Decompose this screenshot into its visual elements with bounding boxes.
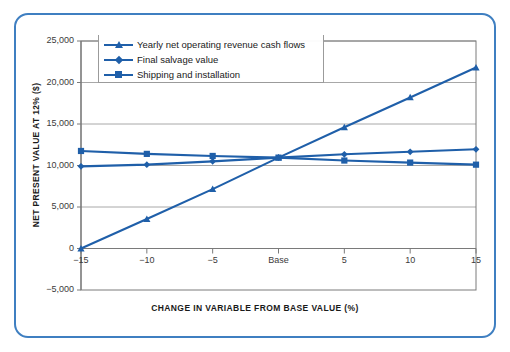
x-tick-label: −10 xyxy=(122,255,172,265)
y-tick-label: 0 xyxy=(20,243,74,253)
legend-label-0: Yearly net operating revenue cash flows xyxy=(137,39,305,50)
x-axis-title: CHANGE IN VARIABLE FROM BASE VALUE (%) xyxy=(0,303,510,313)
y-axis-title: NET PRESENT VALUE AT 12% ($) xyxy=(31,65,41,245)
y-tick-label: 20,000 xyxy=(20,77,74,87)
y-tick-label: 5,000 xyxy=(20,201,74,211)
plot-wrapper: 25,00020,00015,00010,0005,0000−5,000 −15… xyxy=(0,0,510,352)
data-point-marker xyxy=(341,151,348,158)
legend-item-0: Yearly net operating revenue cash flows xyxy=(99,37,323,52)
legend-item-2: Shipping and installation xyxy=(99,67,323,82)
x-tick-marks xyxy=(81,249,476,254)
x-tick-label: −15 xyxy=(56,255,106,265)
data-point-marker xyxy=(407,148,414,155)
data-point-marker xyxy=(473,146,480,153)
data-point-marker xyxy=(144,151,150,157)
legend-item-1: Final salvage value xyxy=(99,52,323,67)
y-tick-label: 15,000 xyxy=(20,118,74,128)
x-tick-label: 10 xyxy=(385,255,435,265)
data-point-marker xyxy=(210,153,216,159)
data-point-marker xyxy=(78,163,85,170)
x-tick-label: Base xyxy=(254,255,304,265)
chart-legend: Yearly net operating revenue cash flows … xyxy=(98,35,324,83)
figure-container: 25,00020,00015,00010,0005,0000−5,000 −15… xyxy=(0,0,510,352)
data-point-marker xyxy=(143,161,150,168)
y-tick-label: −5,000 xyxy=(20,284,74,294)
x-tick-label: 5 xyxy=(319,255,369,265)
x-tick-label: 15 xyxy=(451,255,501,265)
y-tick-label: 10,000 xyxy=(20,160,74,170)
legend-label-1: Final salvage value xyxy=(137,54,218,65)
x-tick-label: −5 xyxy=(188,255,238,265)
data-point-marker xyxy=(407,159,413,165)
data-point-marker xyxy=(472,64,479,70)
triangle-marker-icon xyxy=(115,41,123,48)
square-marker-icon xyxy=(115,71,122,78)
legend-label-2: Shipping and installation xyxy=(137,69,240,80)
data-point-marker xyxy=(275,155,281,161)
diamond-marker-icon xyxy=(114,55,122,63)
data-point-marker xyxy=(341,157,347,163)
y-tick-label: 25,000 xyxy=(20,35,74,45)
data-point-marker xyxy=(78,148,84,154)
data-point-marker xyxy=(473,162,479,168)
